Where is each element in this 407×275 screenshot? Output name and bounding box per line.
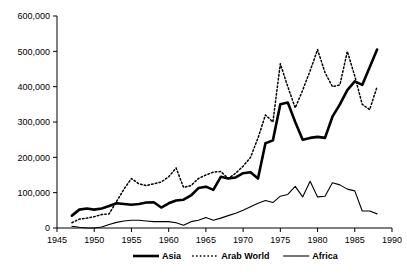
chart-plot-area: 0100,000200,000300,000400,000500,000600,… [0,0,407,275]
y-tick-label: 100,000 [17,188,50,198]
x-tick-label: 1955 [121,235,141,245]
y-tick-label: 500,000 [17,47,50,57]
legend-label-arab-world: Arab World [221,251,269,261]
x-tick-label: 1990 [382,235,402,245]
x-tick-label: 1965 [196,235,216,245]
legend-label-asia: Asia [162,251,182,261]
y-tick-label: 0 [45,223,50,233]
x-tick-label: 1945 [47,235,67,245]
x-tick-label: 1970 [233,235,253,245]
y-tick-label: 400,000 [17,82,50,92]
series-line-arab-world [72,50,377,223]
y-tick-label: 300,000 [17,117,50,127]
y-tick-label: 600,000 [17,11,50,21]
legend-label-africa: Africa [312,251,339,261]
x-tick-label: 1950 [84,235,104,245]
x-tick-label: 1985 [345,235,365,245]
x-tick-label: 1980 [308,235,328,245]
x-tick-label: 1960 [159,235,179,245]
x-axis-tick-group: 1945195019551960196519701975198019851990 [47,228,402,245]
chart-legend: AsiaArab WorldAfrica [133,251,339,261]
y-axis-tick-group: 0100,000200,000300,000400,000500,000600,… [17,11,57,233]
line-chart-figure: 0100,000200,000300,000400,000500,000600,… [0,0,407,275]
series-line-asia [72,50,377,216]
y-tick-label: 200,000 [17,153,50,163]
x-tick-label: 1975 [270,235,290,245]
